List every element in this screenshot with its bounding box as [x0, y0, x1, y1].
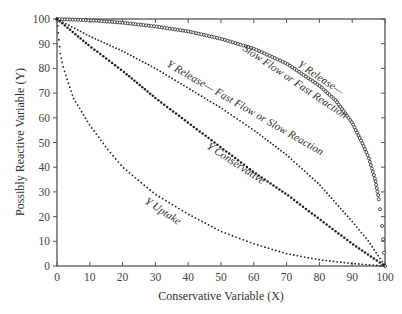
y-tick-label: 10 — [39, 235, 51, 247]
series-1 — [56, 18, 385, 265]
chart-svg: 0102030405060708090100010203040506070809… — [0, 0, 402, 314]
y-axis-title: Possibly Reactive Variable (Y) — [13, 68, 27, 216]
x-tick-label: 20 — [117, 271, 129, 283]
y-tick-label: 80 — [39, 62, 51, 74]
x-tick-label: 100 — [376, 271, 394, 283]
plot-frame — [57, 19, 385, 266]
y-tick-label: 0 — [44, 260, 50, 272]
y-tick-label: 40 — [39, 161, 51, 173]
series-0 — [56, 18, 387, 268]
x-tick-label: 80 — [314, 271, 326, 283]
x-tick-label: 40 — [182, 271, 194, 283]
y-tick-label: 20 — [39, 211, 51, 223]
series-layer — [56, 18, 387, 268]
y-tick-label: 90 — [39, 38, 51, 50]
series-2 — [56, 18, 384, 266]
x-tick-label: 10 — [84, 271, 96, 283]
plot-border — [57, 19, 385, 266]
y-tick-label: 70 — [39, 87, 51, 99]
x-tick-label: 70 — [281, 271, 293, 283]
x-tick-label: 0 — [54, 271, 60, 283]
x-axis-title: Conservative Variable (X) — [158, 289, 284, 303]
x-tick-label: 60 — [248, 271, 260, 283]
x-tick-label: 90 — [346, 271, 358, 283]
y-tick-label: 60 — [39, 112, 51, 124]
y-tick-label: 50 — [39, 137, 51, 149]
annotation-conservative: Y Conservative — [205, 140, 268, 187]
y-tick-label: 100 — [33, 13, 51, 25]
series-3 — [56, 18, 385, 267]
x-tick-label: 50 — [215, 271, 227, 283]
x-tick-label: 30 — [150, 271, 162, 283]
y-tick-label: 30 — [39, 186, 51, 198]
annotation-uptake: Y Uptake — [143, 195, 184, 227]
